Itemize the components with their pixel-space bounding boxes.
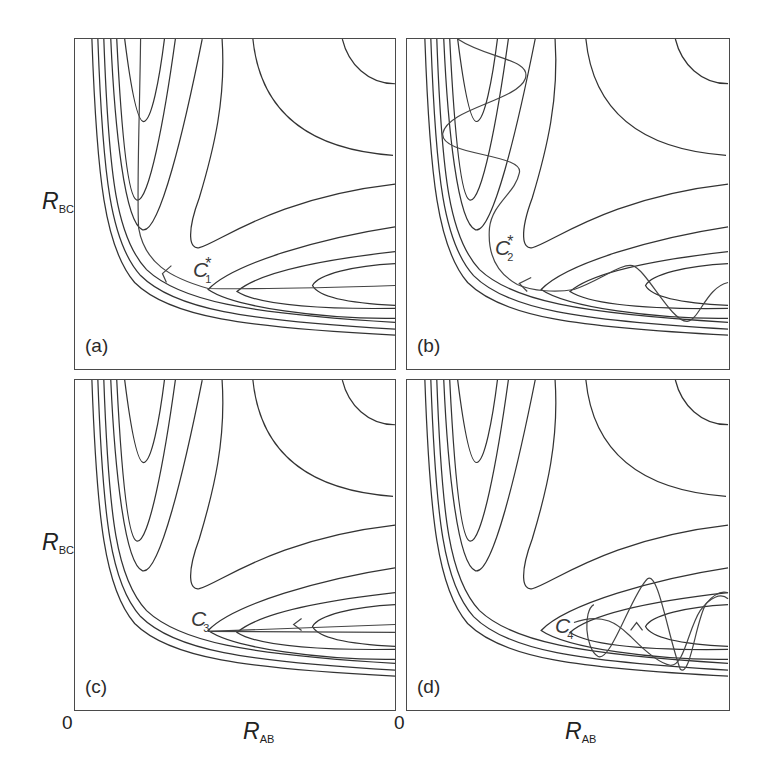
axis-label-sub: AB: [260, 733, 275, 745]
panel-label: (c): [85, 676, 107, 698]
axis-label-sub: BC: [59, 544, 74, 556]
origin-label-right: 0: [394, 713, 405, 732]
axis-label-sub: AB: [582, 733, 597, 745]
origin-label-left: 0: [62, 713, 73, 732]
arrow-icon: [519, 278, 531, 292]
trajectory: [443, 39, 728, 321]
arrow-icon: [162, 266, 171, 283]
axis-label-sub: BC: [59, 203, 74, 215]
panel-label: (a): [85, 335, 108, 357]
axis-label-main: R: [42, 529, 59, 555]
saddle-point-label: C2*: [495, 237, 523, 258]
reaction-path: [138, 39, 395, 289]
axis-label-main: R: [565, 718, 582, 744]
contour-plot-d: [407, 380, 729, 710]
axis-label-main: R: [42, 188, 59, 214]
panel-label: (b): [417, 335, 440, 357]
x-axis-label-left: RAB: [243, 720, 274, 743]
y-axis-label-bottom: RBC: [42, 531, 74, 554]
contour-plot-b: [407, 39, 729, 369]
point-label: C3: [191, 608, 212, 629]
point-label: C4: [555, 615, 576, 636]
arrow-icon: [631, 623, 643, 631]
x-axis-label-right: RAB: [565, 720, 596, 743]
contour-plot-a: [75, 39, 395, 369]
panel-c: C3 (c): [74, 379, 396, 711]
axis-label-main: R: [243, 718, 260, 744]
y-axis-label-top: RBC: [42, 190, 74, 213]
contour-plot-c: [75, 380, 395, 710]
panel-b: C2* (b): [406, 38, 730, 370]
panel-d: C4 (d): [406, 379, 730, 711]
panel-label: (d): [417, 676, 440, 698]
saddle-point-label: C1*: [193, 259, 221, 280]
panel-a: C1* (a): [74, 38, 396, 370]
